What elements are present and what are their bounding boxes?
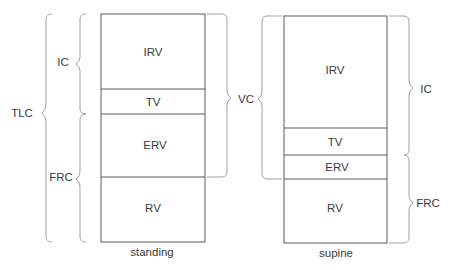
- vc-label: VC: [238, 93, 254, 105]
- ic-supine-label: IC: [420, 83, 432, 95]
- ic-standing-bracket: [76, 14, 86, 114]
- supine-irv-label: IRV: [326, 64, 345, 76]
- supine-rv-label: RV: [327, 202, 343, 214]
- standing-rv-label: RV: [145, 202, 161, 214]
- supine-caption: supine: [319, 247, 353, 259]
- frc-standing-label: FRC: [49, 171, 73, 183]
- vc-bracket: [207, 14, 231, 177]
- supine-tv-label: TV: [328, 136, 343, 148]
- frc-standing-bracket: [76, 114, 86, 242]
- tlc-bracket: [42, 14, 52, 242]
- lung-volumes-diagram: [0, 0, 453, 270]
- standing-irv-label: IRV: [144, 46, 163, 58]
- supine-erv-label: ERV: [325, 161, 348, 173]
- tlc-label: TLC: [11, 107, 33, 119]
- standing-erv-label: ERV: [143, 139, 166, 151]
- ic-standing-label: IC: [57, 56, 69, 68]
- standing-tv-label: TV: [146, 96, 161, 108]
- vc-supine-bracket: [258, 16, 282, 179]
- ic-supine-bracket: [389, 16, 413, 155]
- frc-supine-label: FRC: [416, 197, 440, 209]
- frc-supine-bracket: [389, 155, 413, 243]
- standing-caption: standing: [130, 246, 173, 258]
